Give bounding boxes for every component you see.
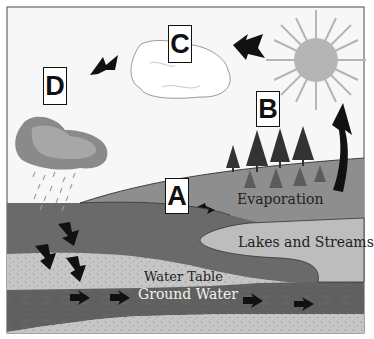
label-c: C bbox=[168, 25, 192, 63]
water-table-label: Water Table bbox=[144, 269, 223, 284]
label-d: D bbox=[43, 67, 67, 105]
label-b: B bbox=[256, 91, 280, 127]
evaporation-label: Evaporation bbox=[237, 191, 323, 207]
lakes-label: Lakes and Streams bbox=[238, 234, 374, 250]
label-a: A bbox=[165, 178, 189, 214]
ground-water-label: Ground Water bbox=[138, 286, 238, 302]
sun-icon bbox=[266, 10, 366, 110]
